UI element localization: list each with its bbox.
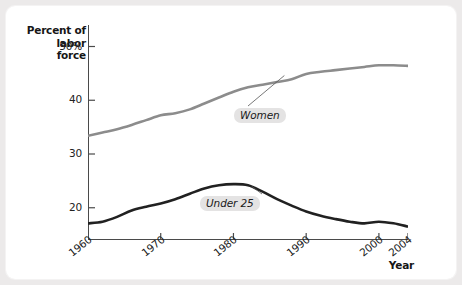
series-label-under-25: Under 25 [200,196,260,211]
chart-figure: Percent of labor force 50%403020 1960197… [0,0,462,285]
y-tick-label: 30 [42,147,82,159]
x-axis-title: Year [389,259,414,271]
annotation-leader-lines [248,76,284,194]
series-line-women [88,65,408,136]
leader-line [248,76,284,106]
y-tick-label: 20 [42,201,82,213]
series-label-women: Women [234,108,286,123]
y-tick-label: 40 [42,93,82,105]
y-axis-title-line1: Percent of [24,24,86,37]
y-tick-label: 50% [42,40,82,52]
